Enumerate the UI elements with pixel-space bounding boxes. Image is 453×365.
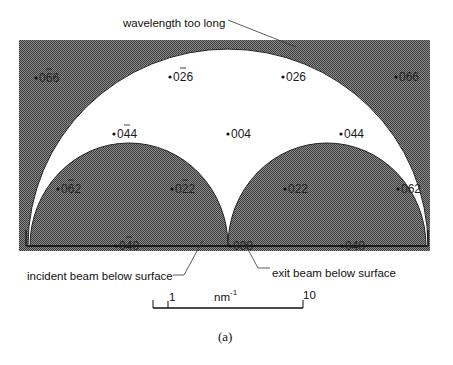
reflection-06bar6: 066	[34, 69, 59, 85]
reflection-026: 026	[281, 70, 306, 84]
reflection-066: 066	[394, 70, 419, 84]
svg-text:040: 040	[119, 239, 139, 253]
reflection-04bar0: 040	[114, 237, 139, 253]
svg-text:044: 044	[117, 127, 137, 141]
annotation-wavelength-too-long: wavelength too long	[122, 17, 225, 29]
reflection-06bar2: 062	[56, 180, 81, 196]
reflection-022: 022	[283, 182, 308, 196]
svg-text:000: 000	[233, 239, 253, 253]
svg-text:066: 066	[39, 71, 59, 85]
reflection-004: 004	[226, 127, 251, 141]
scale-tick-min: 1	[169, 291, 175, 303]
svg-text:040: 040	[345, 239, 365, 253]
annotation-exit-beam: exit beam below surface	[272, 267, 396, 279]
reflection-062: 062	[396, 182, 421, 196]
reflection-040: 040	[340, 239, 365, 253]
annotation-incident-beam: incident beam below surface	[27, 270, 173, 282]
svg-text:022: 022	[175, 182, 195, 196]
svg-text:026: 026	[286, 70, 306, 84]
svg-text:066: 066	[399, 70, 419, 84]
scale-tick-max: 10	[303, 289, 316, 301]
scale-bar: 1 10 nm-1	[153, 288, 316, 308]
svg-text:062: 062	[401, 182, 421, 196]
svg-text:062: 062	[61, 182, 81, 196]
reflection-02bar6: 026	[168, 68, 193, 84]
reflection-044: 044	[339, 127, 364, 141]
reflection-000: 000	[228, 239, 253, 253]
scale-unit: nm-1	[214, 288, 238, 303]
reflection-04bar4: 044	[112, 125, 137, 141]
svg-text:026: 026	[173, 70, 193, 84]
svg-text:022: 022	[288, 182, 308, 196]
ewald-sphere-diagram: wavelength too long incident beam below …	[0, 0, 453, 365]
reflection-02bar2: 022	[170, 180, 195, 196]
svg-text:044: 044	[344, 127, 364, 141]
svg-text:004: 004	[231, 127, 251, 141]
figure-caption: (a)	[218, 329, 232, 344]
